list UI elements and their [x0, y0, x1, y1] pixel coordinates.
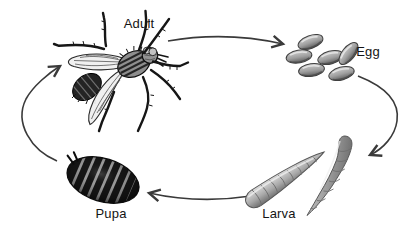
arrow-adult-to-egg — [168, 37, 283, 44]
egg-shape — [298, 62, 326, 78]
life-cycle-drawing — [0, 0, 414, 232]
pupa-label: Pupa — [79, 207, 143, 221]
fly-wing-upper — [68, 54, 124, 70]
adult-label: Adult — [107, 17, 171, 31]
egg-shape — [285, 48, 313, 65]
pupa-illustration — [57, 146, 145, 213]
arrow-larva-to-pupa — [149, 193, 251, 199]
larva-label: Larva — [247, 207, 311, 221]
fly-life-cycle-figure: Adult Egg Larva Pupa — [0, 0, 414, 232]
arrow-pupa-to-adult — [22, 66, 60, 161]
fly-eye — [149, 48, 157, 56]
egg-shape — [296, 32, 325, 53]
larva-right-illustration — [307, 136, 352, 216]
egg-shape — [327, 64, 355, 83]
arrow-egg-to-larva — [358, 76, 397, 155]
egg-label: Egg — [336, 45, 400, 59]
